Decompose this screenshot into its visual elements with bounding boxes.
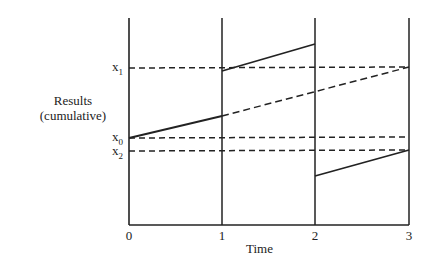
ref-x1 — [129, 67, 409, 68]
x-tick-3: 3 — [401, 228, 417, 244]
ref-x0 — [129, 137, 409, 138]
x-axis-label: Time — [246, 241, 273, 257]
x-tick-0: 0 — [121, 228, 137, 244]
y-axis-label-line1: Results — [28, 93, 118, 108]
series-period3 — [315, 150, 409, 176]
ref-x2 — [129, 150, 409, 151]
level-label-x2: x2 — [112, 144, 123, 163]
y-axis-label: Results (cumulative) — [28, 93, 118, 123]
x-tick-1: 1 — [214, 228, 230, 244]
y-axis-label-line2: (cumulative) — [28, 108, 118, 123]
x-tick-2: 2 — [307, 228, 323, 244]
series-period1 — [129, 116, 222, 138]
level-label-x1: x1 — [112, 60, 123, 79]
